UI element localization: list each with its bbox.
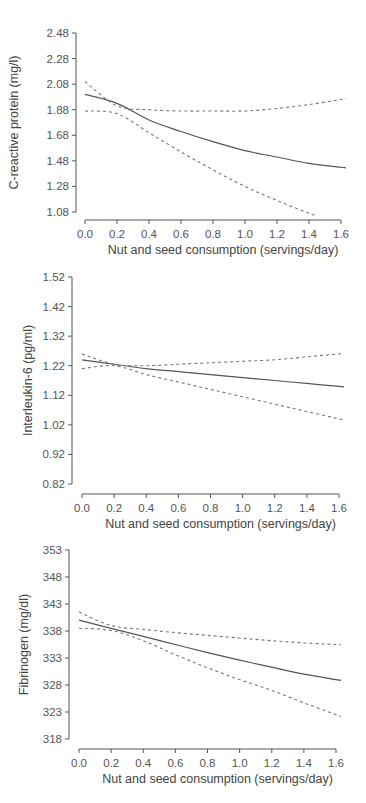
- x-tick-label: 1.2: [264, 757, 280, 769]
- x-tick-label: 0.2: [109, 228, 125, 240]
- y-tick-label: 333: [43, 652, 62, 664]
- y-tick-label: 1.28: [47, 180, 69, 192]
- y-tick-label: 2.08: [47, 78, 69, 90]
- y-tick-label: 1.48: [47, 155, 69, 167]
- plot-area: [79, 612, 341, 716]
- y-axis-title: Interleukin-6 (pg/ml): [21, 325, 35, 436]
- chart-il6: 1.521.421.321.221.121.020.920.82Interleu…: [21, 271, 347, 531]
- x-tick-label: 1.6: [331, 502, 347, 514]
- y-axis: 1.521.421.321.221.121.020.920.82Interleu…: [21, 271, 72, 490]
- x-axis-title: Nut and seed consumption (servings/day): [102, 772, 333, 786]
- x-tick-label: 1.0: [235, 502, 251, 514]
- x-tick-label: 1.6: [333, 228, 349, 240]
- chart-crp: 2.482.282.081.881.681.481.281.08C-reacti…: [7, 27, 349, 257]
- x-axis-title: Nut and seed consumption (servings/day): [108, 243, 339, 257]
- y-tick-label: 0.82: [43, 478, 65, 490]
- lower-ci-line: [85, 111, 346, 227]
- x-axis: 0.00.20.40.60.81.01.21.41.6Nut and seed …: [71, 749, 344, 786]
- y-axis-title: Fibrinogen (mg/dl): [17, 594, 31, 695]
- y-tick-label: 1.52: [43, 271, 65, 283]
- plot-area: [85, 82, 346, 227]
- x-tick-label: 0.6: [173, 228, 189, 240]
- x-tick-label: 0.0: [74, 502, 90, 514]
- x-tick-label: 1.2: [267, 502, 283, 514]
- y-tick-label: 1.32: [43, 330, 65, 342]
- y-tick-label: 2.28: [47, 53, 69, 65]
- x-tick-label: 0.8: [203, 502, 219, 514]
- y-tick-label: 1.12: [43, 389, 65, 401]
- x-tick-label: 0.0: [71, 757, 87, 769]
- y-tick-label: 318: [43, 733, 62, 745]
- x-tick-label: 0.2: [106, 502, 122, 514]
- estimate-line: [79, 620, 341, 680]
- upper-ci-line: [82, 353, 344, 365]
- x-tick-label: 1.4: [301, 228, 318, 240]
- x-tick-label: 0.4: [138, 502, 155, 514]
- x-tick-label: 1.2: [269, 228, 285, 240]
- y-tick-label: 1.08: [47, 206, 69, 218]
- upper-ci-line: [79, 612, 341, 645]
- y-tick-label: 0.92: [43, 448, 65, 460]
- y-tick-label: 1.02: [43, 419, 65, 431]
- y-tick-label: 1.22: [43, 360, 65, 372]
- lower-ci-line: [82, 366, 344, 421]
- y-tick-label: 1.42: [43, 301, 65, 313]
- y-tick-label: 2.48: [47, 27, 69, 39]
- y-tick-label: 1.88: [47, 104, 69, 116]
- x-tick-label: 0.4: [141, 228, 158, 240]
- y-tick-label: 323: [43, 706, 62, 718]
- y-tick-label: 338: [43, 625, 62, 637]
- x-tick-label: 1.0: [232, 757, 248, 769]
- x-tick-label: 0.8: [200, 757, 216, 769]
- x-tick-label: 0.6: [170, 502, 186, 514]
- x-tick-label: 0.6: [167, 757, 183, 769]
- y-axis: 2.482.282.081.881.681.481.281.08C-reacti…: [7, 27, 76, 218]
- y-tick-label: 353: [43, 544, 62, 556]
- x-tick-label: 1.0: [237, 228, 253, 240]
- x-tick-label: 0.8: [205, 228, 221, 240]
- x-tick-label: 0.2: [103, 757, 119, 769]
- estimate-line: [82, 360, 344, 387]
- plot-area: [82, 353, 344, 420]
- y-tick-label: 348: [43, 571, 62, 583]
- x-axis: 0.00.20.40.60.81.01.21.41.6Nut and seed …: [74, 494, 347, 531]
- y-tick-label: 328: [43, 679, 62, 691]
- x-tick-label: 0.4: [135, 757, 152, 769]
- y-tick-label: 343: [43, 598, 62, 610]
- y-axis-title: C-reactive protein (mg/l): [7, 55, 21, 189]
- x-axis: 0.00.20.40.60.81.01.21.41.6Nut and seed …: [77, 220, 349, 257]
- x-axis-title: Nut and seed consumption (servings/day): [105, 517, 336, 531]
- x-tick-label: 0.0: [77, 228, 93, 240]
- y-axis: 353348343338333328323318Fibrinogen (mg/d…: [17, 544, 69, 745]
- x-tick-label: 1.4: [296, 757, 313, 769]
- figure: 2.482.282.081.881.681.481.281.08C-reacti…: [0, 0, 366, 803]
- x-tick-label: 1.4: [299, 502, 316, 514]
- y-tick-label: 1.68: [47, 129, 69, 141]
- x-tick-label: 1.6: [328, 757, 344, 769]
- lower-ci-line: [79, 628, 341, 716]
- chart-fibrinogen: 353348343338333328323318Fibrinogen (mg/d…: [17, 544, 344, 786]
- charts-svg: 2.482.282.081.881.681.481.281.08C-reacti…: [0, 0, 366, 803]
